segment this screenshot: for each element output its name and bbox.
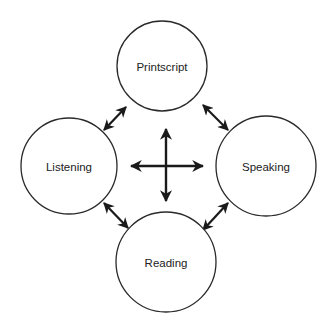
node-printscript: Printscript: [117, 21, 207, 111]
node-label-speaking: Speaking: [242, 161, 290, 173]
node-speaking: Speaking: [216, 116, 316, 216]
arrow-printscript-speaking-icon: [203, 105, 228, 130]
arrow-listening-reading-icon: [104, 203, 128, 228]
node-listening: Listening: [21, 118, 117, 214]
language-modes-diagram: Printscript Listening Speaking Reading: [0, 0, 332, 326]
node-label-listening: Listening: [46, 161, 92, 173]
four-way-arrow-icon: [131, 129, 203, 201]
node-label-printscript: Printscript: [136, 61, 188, 73]
node-label-reading: Reading: [145, 257, 188, 269]
arrow-speaking-reading-icon: [203, 203, 228, 230]
arrow-printscript-listening-icon: [104, 107, 126, 130]
node-reading: Reading: [116, 212, 216, 312]
